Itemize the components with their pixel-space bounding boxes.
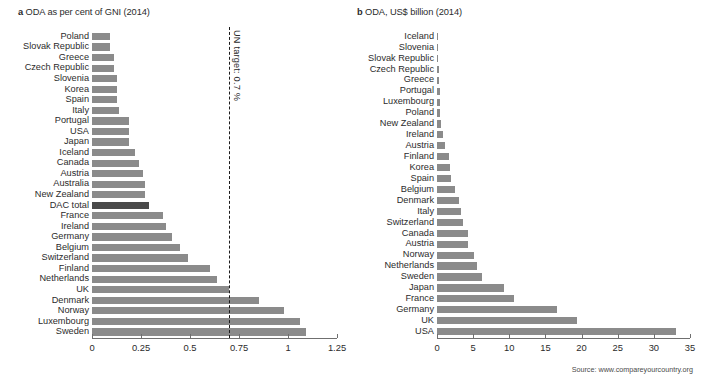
x-axis-tick (473, 334, 474, 338)
bar (437, 120, 441, 127)
category-label: Austria (405, 141, 434, 151)
category-label: Spain (66, 95, 90, 105)
category-label: Slovak Republic (23, 43, 89, 53)
category-label: Switzerland (387, 218, 435, 228)
bar-row: Austria (0, 169, 350, 180)
bar (437, 197, 459, 204)
source-note: Source: www.compareyourcountry.org (572, 365, 693, 374)
bar-row: Switzerland (0, 253, 350, 264)
bar-row: Ireland (350, 130, 701, 141)
bar-row: New Zealand (350, 119, 701, 130)
x-axis-tick-label: 15 (540, 342, 550, 353)
bar (437, 306, 557, 313)
bar-row: Italy (0, 105, 350, 116)
x-axis-tick (654, 334, 655, 338)
category-label: Denmark (52, 296, 89, 306)
bar-row: Switzerland (350, 217, 701, 228)
bar-row: Portugal (0, 116, 350, 127)
bar-row: Australia (0, 179, 350, 190)
bar-row: Iceland (0, 148, 350, 159)
bar-row: DAC total (0, 200, 350, 211)
category-label: USA (415, 327, 434, 337)
bar-row: Greece (350, 75, 701, 86)
category-label: New Zealand (35, 190, 89, 200)
bar-row: Netherlands (350, 261, 701, 272)
bar (437, 252, 474, 259)
bar (92, 276, 217, 283)
category-label: Switzerland (42, 254, 90, 264)
bar (92, 117, 129, 124)
bar-row: Sweden (0, 327, 350, 338)
bar (437, 219, 463, 226)
category-label: Austria (405, 240, 434, 250)
category-label: Norway (58, 306, 89, 316)
category-label: Slovak Republic (368, 54, 434, 64)
bar-row: Spain (350, 174, 701, 185)
category-label: Iceland (59, 148, 89, 158)
bar-row: Luxembourg (350, 97, 701, 108)
bar-row: Germany (350, 305, 701, 316)
bar (437, 44, 438, 51)
bar-row: Austria (350, 239, 701, 250)
category-label: Greece (59, 53, 89, 63)
category-label: Spain (411, 174, 435, 184)
category-label: Japan (409, 283, 434, 293)
category-label: Luxembourg (383, 98, 434, 108)
category-label: Italy (417, 207, 434, 217)
bar-row: Slovak Republic (0, 42, 350, 53)
category-label: Canada (402, 229, 434, 239)
bar-row: Czech Republic (350, 64, 701, 75)
bar (92, 265, 210, 272)
bar-row: Spain (0, 95, 350, 106)
bar-row: France (350, 294, 701, 305)
category-label: Greece (404, 76, 434, 86)
bar-row: Italy (350, 206, 701, 217)
bar-row: Belgium (350, 185, 701, 196)
bar-row: Canada (350, 228, 701, 239)
x-axis-tick (545, 334, 546, 338)
x-axis-tick (618, 334, 619, 338)
bar (92, 191, 145, 198)
category-label: Japan (64, 137, 89, 147)
bar (437, 175, 451, 182)
bar (92, 223, 166, 230)
x-axis-tick-label: 10 (504, 342, 514, 353)
category-label: DAC total (50, 201, 89, 211)
bar (437, 317, 577, 324)
bar (92, 318, 300, 325)
category-label: Sweden (401, 272, 434, 282)
category-label: Ireland (61, 222, 89, 232)
x-axis-tick-label: 5 (471, 342, 476, 353)
bar-row: Japan (350, 283, 701, 294)
x-axis-tick-label: 25 (612, 342, 622, 353)
x-axis-tick-label: 0.25 (132, 342, 150, 353)
bar-row: Poland (0, 32, 350, 43)
category-label: Iceland (404, 32, 434, 42)
category-label: Finland (404, 152, 434, 162)
category-label: Netherlands (39, 275, 89, 285)
bar (92, 244, 180, 251)
bar-row: UK (0, 285, 350, 296)
bar-row: Norway (350, 250, 701, 261)
bar (437, 262, 477, 269)
bar (92, 149, 135, 156)
x-axis-tick (190, 334, 191, 338)
category-label: Canada (57, 159, 89, 169)
bar-row: Luxembourg (0, 316, 350, 327)
bar-row: Denmark (350, 195, 701, 206)
bar (92, 233, 172, 240)
bar (92, 86, 117, 93)
x-axis-tick (582, 334, 583, 338)
bar (437, 284, 504, 291)
bar (92, 170, 143, 177)
category-label: Portugal (400, 87, 434, 97)
bar-row: Canada (0, 158, 350, 169)
x-axis-line (437, 338, 690, 339)
bar-row: New Zealand (0, 190, 350, 201)
bar-row: Slovenia (350, 42, 701, 53)
category-label: Netherlands (384, 261, 434, 271)
x-axis-tick (239, 334, 240, 338)
bar (437, 273, 482, 280)
bar (92, 65, 114, 72)
category-label: Slovenia (54, 74, 89, 84)
